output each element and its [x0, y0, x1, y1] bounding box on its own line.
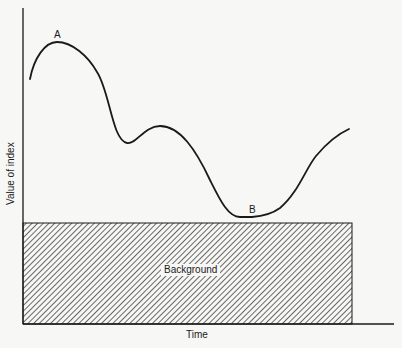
y-axis-label: Value of index: [6, 142, 16, 205]
peak-label-a: A: [54, 30, 61, 40]
index-curve: [30, 42, 349, 217]
trough-label-b: B: [249, 205, 256, 215]
background-label: Background: [161, 264, 220, 276]
index-vs-time-diagram: A B Background Time Value of index: [0, 0, 402, 348]
diagram-canvas: [0, 0, 402, 348]
x-axis-label: Time: [186, 330, 208, 340]
